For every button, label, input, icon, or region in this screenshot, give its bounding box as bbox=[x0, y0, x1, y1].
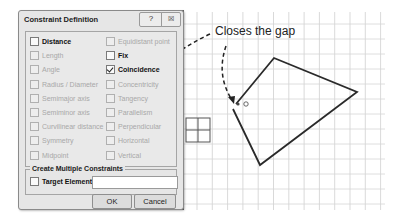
target-element-label: Target Element bbox=[42, 178, 92, 185]
checkbox-semimajor-axis: Semimajor axis bbox=[30, 93, 90, 104]
constraint-definition-dialog: Constraint Definition ? ☒ DistanceLength… bbox=[18, 10, 184, 210]
checkbox-radius-diameter: Radius / Diameter bbox=[30, 79, 98, 90]
checkbox-label: Equidistant point bbox=[118, 38, 170, 45]
checkbox-label: Vertical bbox=[118, 152, 141, 159]
ok-button[interactable]: OK bbox=[92, 194, 132, 209]
constraint-icon bbox=[186, 118, 210, 142]
checkbox-box bbox=[30, 136, 39, 145]
checkbox-box bbox=[30, 122, 39, 131]
checkbox-curvilinear-distance: Curvilinear distance bbox=[30, 121, 103, 132]
checkbox-box bbox=[106, 80, 115, 89]
dialog-titlebar[interactable]: Constraint Definition ? ☒ bbox=[19, 11, 183, 28]
annotation-arrow-to-gap bbox=[222, 46, 232, 100]
checkbox-label: Coincidence bbox=[118, 66, 160, 73]
checkbox-label: Angle bbox=[42, 66, 60, 73]
sketch-profile[interactable] bbox=[233, 58, 357, 165]
checkbox-box bbox=[30, 80, 39, 89]
checkbox-box[interactable] bbox=[30, 37, 39, 46]
constraints-group: DistanceLengthAngleRadius / DiameterSemi… bbox=[25, 31, 177, 167]
gap-endpoint-marker[interactable] bbox=[244, 102, 248, 106]
dialog-title: Constraint Definition bbox=[24, 15, 98, 24]
checkbox-box bbox=[30, 108, 39, 117]
checkbox-label: Symmetry bbox=[42, 137, 74, 144]
checkbox-label: Fix bbox=[118, 52, 128, 59]
checkbox-box bbox=[30, 94, 39, 103]
help-button[interactable]: ? bbox=[139, 12, 163, 27]
annotation-label: Closes the gap bbox=[215, 24, 295, 38]
checkbox-distance[interactable]: Distance bbox=[30, 36, 71, 47]
checkbox[interactable] bbox=[30, 177, 39, 186]
checkbox-label: Distance bbox=[42, 38, 71, 45]
checkbox-label: Horizontal bbox=[118, 137, 150, 144]
arrowhead-gap bbox=[228, 96, 235, 104]
checkbox-horizontal: Horizontal bbox=[106, 135, 150, 146]
target-element-input[interactable] bbox=[92, 176, 178, 189]
checkbox-label: Concentricity bbox=[118, 81, 158, 88]
checkbox-label: Radius / Diameter bbox=[42, 81, 98, 88]
checkbox-label: Semimajor axis bbox=[42, 95, 90, 102]
checkbox-coincidence[interactable]: Coincidence bbox=[106, 64, 160, 75]
close-button[interactable]: ☒ bbox=[161, 12, 181, 27]
checkbox-equidistant-point: Equidistant point bbox=[106, 36, 170, 47]
cancel-button[interactable]: Cancel bbox=[134, 194, 176, 209]
checkbox-length: Length bbox=[30, 50, 63, 61]
checkbox-box bbox=[106, 151, 115, 160]
checkbox-box bbox=[106, 94, 115, 103]
checkbox-box bbox=[30, 151, 39, 160]
checkbox-label: Perpendicular bbox=[118, 123, 161, 130]
checkbox-angle: Angle bbox=[30, 64, 60, 75]
checkbox-label: Tangency bbox=[118, 95, 148, 102]
checkbox-fix[interactable]: Fix bbox=[106, 50, 128, 61]
checkbox-label: Length bbox=[42, 52, 63, 59]
gap-point[interactable] bbox=[236, 102, 239, 105]
create-multiple-constraints-group: Create Multiple Constraints Target Eleme… bbox=[25, 169, 177, 195]
checkbox-label: Parallelism bbox=[118, 109, 152, 116]
checkbox-label: Curvilinear distance bbox=[42, 123, 103, 130]
checkbox-midpoint: Midpoint bbox=[30, 150, 68, 161]
checkbox-vertical: Vertical bbox=[106, 150, 141, 161]
checkbox-box bbox=[30, 51, 39, 60]
checkbox-perpendicular: Perpendicular bbox=[106, 121, 161, 132]
group-title: Create Multiple Constraints bbox=[30, 165, 125, 172]
checkbox-tangency: Tangency bbox=[106, 93, 148, 104]
checkbox-box bbox=[106, 122, 115, 131]
checkbox-box bbox=[106, 136, 115, 145]
checkbox-box bbox=[106, 37, 115, 46]
checkbox-box bbox=[106, 108, 115, 117]
checkbox-label: Semiminor axis bbox=[42, 109, 90, 116]
checkbox-box bbox=[30, 65, 39, 74]
checkbox-label: Midpoint bbox=[42, 152, 68, 159]
checkbox-parallelism: Parallelism bbox=[106, 107, 152, 118]
checkbox-box[interactable] bbox=[106, 65, 115, 74]
checkbox-semiminor-axis: Semiminor axis bbox=[30, 107, 90, 118]
checkbox-symmetry: Symmetry bbox=[30, 135, 74, 146]
target-element-checkbox[interactable]: Target Element bbox=[30, 176, 92, 187]
checkbox-box[interactable] bbox=[106, 51, 115, 60]
checkbox-concentricity: Concentricity bbox=[106, 79, 158, 90]
